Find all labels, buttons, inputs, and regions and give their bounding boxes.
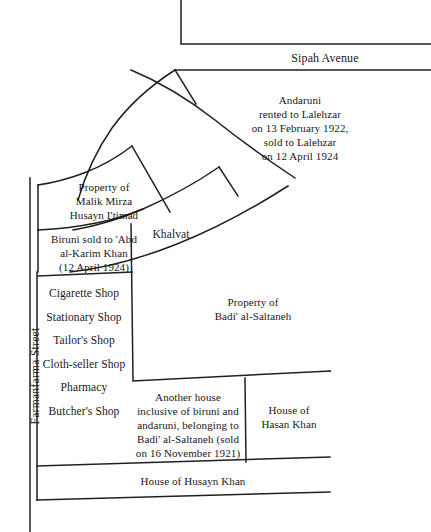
parcel-label-husayn-khan: House of Husayn Khan	[113, 474, 273, 488]
parcel-label-andaruni: Andaruni rented to Lalehzar on 13 Februa…	[215, 93, 385, 163]
another-house-top	[133, 371, 330, 381]
parcel-label-badi-al-saltaneh: Property of Badi' al-Saltaneh	[178, 295, 328, 323]
street-label-farmanfarma-street: Farmanfarma Street	[29, 311, 41, 441]
parcel-label-malik-mirza: Property of Malik Mirza Husayn I'timad	[42, 180, 166, 222]
property-plan-diagram: Sipah Avenue Andaruni rented to Lalehzar…	[0, 0, 431, 532]
shop-label: Tailor's Shop	[36, 333, 132, 348]
husayn-khan-bottom	[37, 492, 330, 500]
shop-label: Stationary Shop	[36, 310, 132, 325]
shop-label: Cloth-seller Shop	[36, 357, 132, 372]
parcel-label-another-house: Another house inclusive of biruni and an…	[130, 390, 246, 460]
place-label-khalvat: Khalvat	[133, 227, 209, 242]
shop-label: Butcher's Shop	[36, 404, 132, 419]
shop-label: Pharmacy	[36, 380, 132, 395]
parcel-label-hasan-khan: House of Hasan Khan	[249, 403, 329, 431]
sipah-north-kerb	[181, 0, 431, 44]
shop-label: Cigarette Shop	[36, 286, 132, 301]
radial-divider-2	[219, 167, 238, 196]
street-label-sipah-avenue: Sipah Avenue	[255, 51, 395, 66]
